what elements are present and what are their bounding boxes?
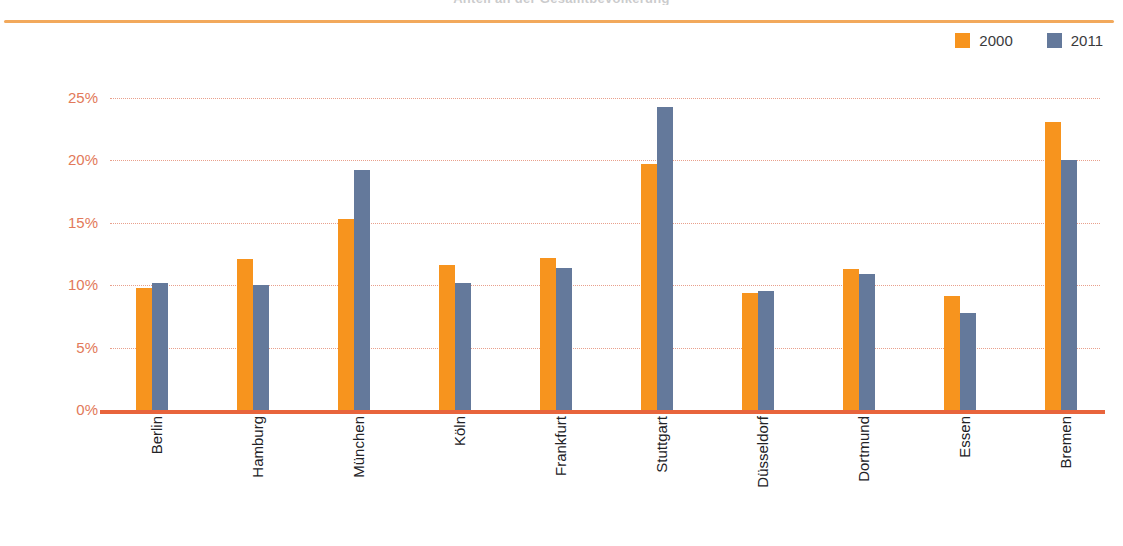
y-axis-tick-label: 15%: [38, 214, 98, 231]
legend-item-2000[interactable]: 2000: [955, 33, 1012, 48]
legend-label-2011: 2011: [1071, 33, 1103, 48]
bar-köln-2000[interactable]: [439, 265, 455, 410]
x-axis-label-frankfurt: Frankfurt: [553, 416, 568, 476]
x-axis-label-köln: Köln: [452, 416, 467, 446]
y-axis-tick-label: 20%: [38, 151, 98, 168]
bar-bremen-2000[interactable]: [1045, 122, 1061, 410]
x-axis-label-hamburg: Hamburg: [250, 416, 265, 478]
chart-title-cropped: Anteil an der Gesamtbevölkerung: [0, 0, 1123, 5]
bar-bremen-2011[interactable]: [1061, 160, 1077, 410]
y-axis-tick-label: 0%: [38, 401, 98, 418]
bar-düsseldorf-2000[interactable]: [742, 293, 758, 410]
header-rule: [4, 20, 1114, 23]
bar-düsseldorf-2011[interactable]: [758, 291, 774, 410]
chart-legend: 2000 2011: [955, 33, 1103, 48]
bar-münchen-2011[interactable]: [354, 170, 370, 410]
bar-dortmund-2000[interactable]: [843, 269, 859, 410]
y-axis-tick-label: 25%: [38, 89, 98, 106]
bar-hamburg-2000[interactable]: [237, 259, 253, 410]
legend-swatch-2000-icon: [955, 33, 970, 48]
x-axis-labels: BerlinHamburgMünchenKölnFrankfurtStuttga…: [110, 416, 1100, 536]
bar-frankfurt-2011[interactable]: [556, 268, 572, 410]
bar-stuttgart-2011[interactable]: [657, 107, 673, 410]
bar-essen-2011[interactable]: [960, 313, 976, 410]
bar-köln-2011[interactable]: [455, 283, 471, 410]
bar-berlin-2000[interactable]: [136, 288, 152, 410]
x-axis-label-bremen: Bremen: [1058, 416, 1073, 469]
x-axis-label-münchen: München: [351, 416, 366, 478]
legend-item-2011[interactable]: 2011: [1047, 33, 1103, 48]
x-axis-baseline: [100, 410, 1105, 414]
bar-hamburg-2011[interactable]: [253, 285, 269, 410]
bar-stuttgart-2000[interactable]: [641, 164, 657, 410]
y-axis-tick-label: 10%: [38, 276, 98, 293]
x-axis-label-essen: Essen: [957, 416, 972, 458]
x-axis-label-dortmund: Dortmund: [856, 416, 871, 482]
legend-swatch-2011-icon: [1047, 33, 1062, 48]
chart-page: Anteil an der Gesamtbevölkerung 2000 201…: [0, 0, 1123, 546]
y-axis-tick-label: 5%: [38, 339, 98, 356]
x-axis-label-stuttgart: Stuttgart: [654, 416, 669, 473]
bar-essen-2000[interactable]: [944, 296, 960, 410]
x-axis-label-düsseldorf: Düsseldorf: [755, 416, 770, 488]
bar-dortmund-2011[interactable]: [859, 274, 875, 410]
bar-series-layer: [110, 98, 1100, 410]
bar-frankfurt-2000[interactable]: [540, 258, 556, 410]
plot-area: 0%5%10%15%20%25%: [110, 98, 1100, 410]
bar-berlin-2011[interactable]: [152, 283, 168, 410]
legend-label-2000: 2000: [979, 33, 1012, 48]
x-axis-label-berlin: Berlin: [149, 416, 164, 454]
bar-münchen-2000[interactable]: [338, 219, 354, 410]
